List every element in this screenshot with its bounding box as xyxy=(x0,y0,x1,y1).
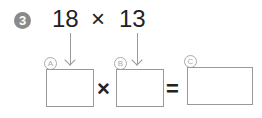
operand-1: 18 xyxy=(52,6,79,32)
problem-number-badge: 3 xyxy=(14,12,31,29)
answer-box-b[interactable] xyxy=(116,69,164,107)
operand-2: 13 xyxy=(119,6,146,32)
answer-box-c[interactable] xyxy=(187,67,253,105)
operator: × xyxy=(91,6,105,32)
times-sign: × xyxy=(97,78,110,100)
equals-sign: = xyxy=(166,78,179,100)
answer-box-a[interactable] xyxy=(46,69,94,107)
